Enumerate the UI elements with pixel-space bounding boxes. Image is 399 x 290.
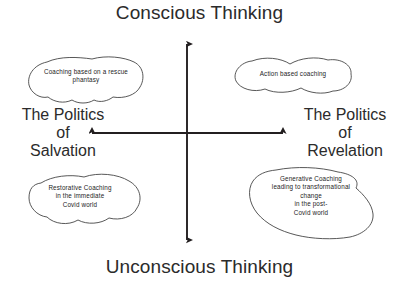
axis-label-right-line-2: of — [292, 124, 398, 142]
axis-title-unconscious-thinking: Unconscious Thinking — [0, 256, 399, 278]
quadrant-label-bottom-left-line-2: in the immediate — [28, 192, 132, 200]
quadrant-label-top-left-line-2: phantasy — [36, 76, 136, 84]
quadrant-label-bottom-right-line-5: Covid world — [256, 209, 366, 217]
axis-label-left-line-1: The Politics — [4, 106, 122, 124]
axis-label-politics-of-revelation: The Politics of Revelation — [292, 106, 398, 160]
quadrant-label-top-left-line-1: Coaching based on a rescue — [36, 68, 136, 76]
axis-label-left-line-3: Salvation — [4, 142, 122, 160]
quadrant-label-bottom-right-line-1: Generative Coaching — [256, 175, 366, 183]
quadrant-label-bottom-right: Generative Coaching leading to transform… — [256, 175, 366, 217]
diagram-canvas: Conscious Thinking Unconscious Thinking … — [0, 0, 399, 290]
quadrant-label-top-right-line-1: Action based coaching — [243, 70, 343, 78]
quadrant-label-bottom-right-line-3: change — [256, 192, 366, 200]
quadrant-label-bottom-left-line-1: Restorative Coaching — [28, 184, 132, 192]
axis-label-left-line-2: of — [4, 124, 122, 142]
quadrant-label-bottom-right-line-2: leading to transformational — [256, 183, 366, 191]
quadrant-label-bottom-left-line-3: Covid world — [28, 201, 132, 209]
quadrant-label-bottom-left: Restorative Coaching in the immediate Co… — [28, 184, 132, 209]
quadrant-label-top-left: Coaching based on a rescue phantasy — [36, 68, 136, 85]
axis-title-conscious-thinking: Conscious Thinking — [0, 2, 399, 24]
quadrant-label-bottom-right-line-4: in the post- — [256, 200, 366, 208]
axis-label-right-line-3: Revelation — [292, 142, 398, 160]
axis-label-right-line-1: The Politics — [292, 106, 398, 124]
axis-label-politics-of-salvation: The Politics of Salvation — [4, 106, 122, 160]
quadrant-label-top-right: Action based coaching — [243, 70, 343, 78]
